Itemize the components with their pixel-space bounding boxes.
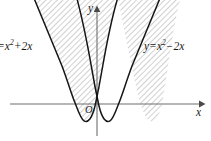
curve-label-left-parabola: =x2+2x <box>0 39 32 52</box>
left-label-tail: +2x <box>14 40 33 52</box>
right-label-tail: −2x <box>166 40 185 52</box>
origin-label: O <box>85 105 93 116</box>
curve-label-right-parabola: y=x2−2x <box>144 39 184 52</box>
shaded-region-right <box>118 0 181 121</box>
math-figure: =x2+2x y=x2−2x y x O <box>0 0 211 141</box>
y-axis-label: y <box>88 3 93 15</box>
right-label-prefix: y= <box>144 40 157 52</box>
x-axis-label: x <box>196 107 201 119</box>
graph-canvas <box>0 0 211 141</box>
